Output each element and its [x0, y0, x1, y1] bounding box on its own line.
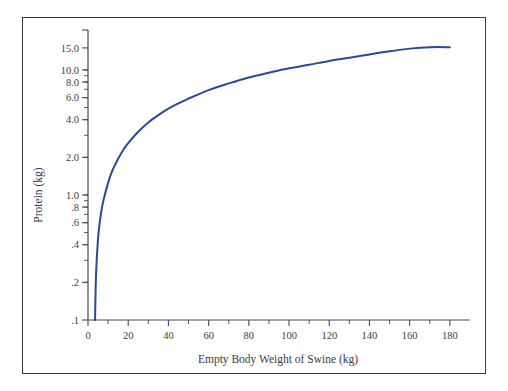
y-tick-label: 6.0 — [66, 92, 79, 103]
x-tick-label: 180 — [442, 330, 458, 341]
x-tick-label: 140 — [362, 330, 378, 341]
y-tick-label: .1 — [71, 315, 79, 326]
x-tick-label: 20 — [123, 330, 134, 341]
y-tick-label: 10.0 — [61, 65, 79, 76]
y-tick-label: .2 — [71, 277, 79, 288]
chart-figure: .1.2.4.6.81.02.04.06.08.010.015.00204060… — [0, 0, 508, 391]
x-tick-label: 100 — [281, 330, 297, 341]
x-tick-label: 60 — [203, 330, 214, 341]
x-tick-label: 80 — [244, 330, 255, 341]
y-tick-label: 1.0 — [66, 190, 79, 201]
x-tick-label: 0 — [85, 330, 90, 341]
y-tick-label: 15.0 — [61, 43, 79, 54]
chart-plot-area: .1.2.4.6.81.02.04.06.08.010.015.00204060… — [0, 0, 508, 391]
x-tick-label: 120 — [321, 330, 337, 341]
y-tick-label: .8 — [71, 202, 79, 213]
y-tick-label: .4 — [71, 239, 80, 250]
data-series-line — [95, 47, 450, 320]
y-tick-label: .6 — [71, 217, 79, 228]
y-tick-label: 8.0 — [66, 77, 79, 88]
y-tick-label: 2.0 — [66, 152, 79, 163]
x-tick-label: 160 — [402, 330, 418, 341]
x-tick-label: 40 — [163, 330, 174, 341]
y-tick-label: 4.0 — [66, 114, 79, 125]
